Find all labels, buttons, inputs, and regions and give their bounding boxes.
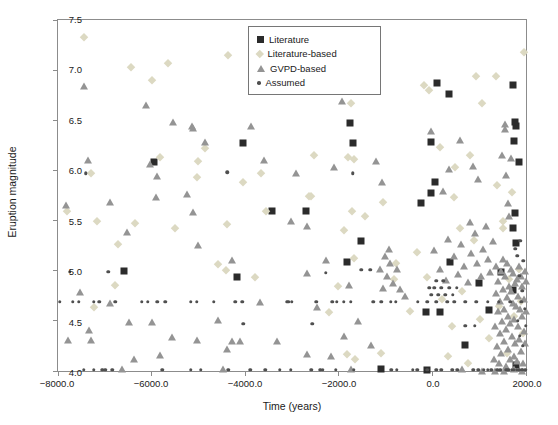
- point-assumed: [426, 368, 430, 372]
- point-literature-based: [423, 273, 431, 281]
- point-gvpd-based: [125, 318, 133, 325]
- point-assumed: [249, 368, 253, 372]
- point-gvpd-based: [430, 246, 438, 253]
- point-literature: [475, 279, 482, 286]
- point-gvpd-based: [340, 332, 348, 339]
- point-literature-based: [436, 143, 444, 151]
- point-gvpd-based: [85, 326, 93, 333]
- point-gvpd-based: [303, 269, 311, 276]
- point-gvpd-based: [330, 164, 338, 171]
- point-assumed: [441, 279, 445, 283]
- point-gvpd-based: [504, 199, 512, 206]
- point-literature-based: [193, 174, 201, 182]
- point-literature: [239, 140, 246, 147]
- point-assumed: [437, 293, 441, 297]
- point-assumed: [435, 279, 439, 283]
- point-gvpd-based: [477, 272, 485, 279]
- point-gvpd-based: [152, 193, 160, 200]
- point-gvpd-based: [500, 305, 508, 312]
- point-assumed: [321, 368, 325, 372]
- point-gvpd-based: [256, 298, 264, 305]
- point-assumed: [290, 300, 294, 304]
- point-assumed: [314, 300, 318, 304]
- point-assumed: [515, 254, 519, 258]
- point-literature-based: [87, 170, 95, 178]
- point-literature: [485, 306, 492, 313]
- point-assumed: [289, 368, 293, 372]
- point-literature-based: [362, 212, 370, 220]
- point-gvpd-based: [168, 333, 176, 340]
- y-tick-mark: [53, 220, 57, 221]
- point-assumed: [471, 368, 475, 372]
- point-gvpd-based: [372, 158, 380, 165]
- point-literature: [516, 159, 523, 166]
- point-assumed: [189, 368, 193, 372]
- y-tick-label: 7.5: [69, 14, 82, 25]
- x-tick-mark: [58, 372, 59, 376]
- point-gvpd-based: [504, 345, 512, 352]
- point-literature: [447, 258, 454, 265]
- point-assumed: [463, 324, 467, 328]
- y-tick-mark: [53, 170, 57, 171]
- point-gvpd-based: [522, 277, 530, 284]
- point-literature-based: [224, 51, 232, 59]
- point-literature-based: [251, 273, 259, 281]
- point-literature-based: [425, 86, 433, 94]
- point-gvpd-based: [189, 125, 197, 132]
- literature-square-icon: [257, 36, 264, 43]
- point-literature-based: [171, 224, 179, 232]
- legend-item-assumed: Assumed: [257, 76, 374, 91]
- point-assumed: [389, 300, 393, 304]
- point-literature-based: [486, 334, 494, 342]
- point-literature-based: [222, 266, 230, 274]
- point-literature: [346, 120, 353, 127]
- point-assumed: [430, 293, 434, 297]
- point-literature-based: [406, 307, 414, 315]
- point-gvpd-based: [474, 176, 482, 183]
- point-literature-based: [377, 349, 385, 357]
- point-gvpd-based: [62, 201, 70, 208]
- point-assumed: [435, 300, 439, 304]
- point-assumed: [517, 274, 521, 278]
- point-gvpd-based: [396, 285, 404, 292]
- point-gvpd-based: [385, 245, 393, 252]
- point-literature-based: [307, 192, 315, 200]
- point-assumed: [156, 300, 160, 304]
- point-gvpd-based: [228, 256, 236, 263]
- point-gvpd-based: [201, 139, 209, 146]
- point-gvpd-based: [345, 281, 353, 288]
- x-tick-label: −6000.0: [134, 378, 169, 389]
- point-assumed: [107, 270, 111, 274]
- point-gvpd-based: [327, 352, 335, 359]
- point-gvpd-based: [454, 270, 462, 277]
- eruption-magnitude-scatter-figure: Eruption magnitude Literature Literature…: [0, 0, 558, 425]
- y-tick-mark: [53, 320, 57, 321]
- point-assumed: [309, 368, 313, 372]
- point-literature-based: [458, 287, 466, 295]
- point-literature-based: [347, 99, 355, 107]
- y-tick-label: 4.0: [69, 367, 82, 378]
- point-assumed: [395, 368, 399, 372]
- point-assumed: [475, 300, 479, 304]
- point-literature-based: [470, 236, 478, 244]
- point-gvpd-based: [153, 173, 161, 180]
- point-gvpd-based: [444, 235, 452, 242]
- point-assumed: [416, 300, 420, 304]
- y-tick-mark: [53, 20, 57, 21]
- y-tick-label: 4.5: [69, 316, 82, 327]
- point-assumed: [508, 300, 512, 304]
- point-gvpd-based: [457, 240, 465, 247]
- point-gvpd-based: [482, 222, 490, 229]
- point-assumed: [428, 286, 432, 290]
- point-assumed: [455, 368, 459, 372]
- point-literature-based: [493, 182, 501, 190]
- point-literature-based: [114, 240, 122, 248]
- point-gvpd-based: [193, 336, 201, 343]
- legend-item-gvpd-based: GVPD-based: [257, 61, 374, 76]
- plot-area: Literature Literature-based GVPD-based A…: [57, 19, 527, 372]
- point-gvpd-based: [502, 325, 510, 332]
- point-gvpd-based: [183, 191, 191, 198]
- x-tick-mark: [526, 372, 527, 376]
- point-assumed: [335, 300, 339, 304]
- point-literature: [437, 308, 444, 315]
